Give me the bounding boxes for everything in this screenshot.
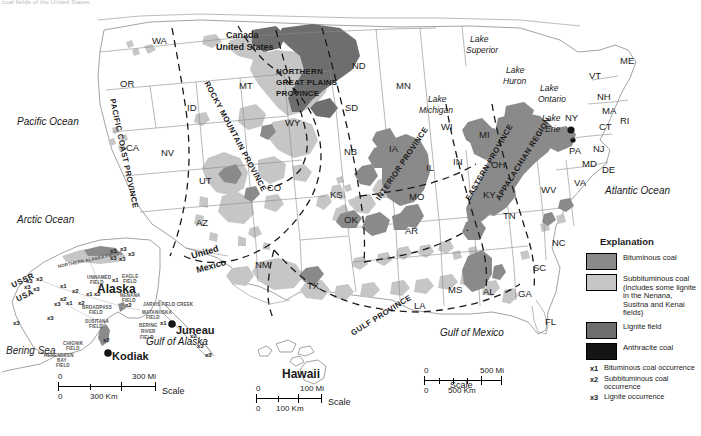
legend-occurrence-label-2: Lignite occurrence	[604, 393, 664, 401]
state-label-mt: MT	[239, 81, 253, 91]
legend-row-0: Bituminous coal	[586, 253, 698, 270]
legend-occurrence-key-x2: x2	[586, 375, 604, 384]
occurrence-marker-x3-4: x3	[119, 256, 126, 262]
state-label-sd: SD	[345, 103, 358, 113]
alaska-field-label-16: FIELD	[140, 336, 154, 341]
occurrence-marker-x3-7: x3	[24, 284, 31, 290]
ocean-label-2: Arctic Ocean	[17, 215, 74, 225]
state-label-nm: NM	[255, 260, 270, 270]
legend-occurrence-row-2: x3Lignite occurrence	[586, 393, 698, 402]
occurrence-marker-x3-25: x3	[205, 352, 212, 358]
legend-swatch-list: Bituminous coalSubbituminous coal (inclu…	[586, 253, 698, 360]
hawaii-scale-km-zero: 0	[256, 404, 260, 413]
hawaii-scale-bar: 0 100 Mi 0 100 Km Scale	[256, 384, 322, 413]
state-label-vt: VT	[589, 71, 601, 81]
hawaii-scale-word: Scale	[328, 397, 351, 407]
state-label-or: OR	[120, 79, 134, 89]
occurrence-marker-x3-2: x3	[128, 251, 135, 257]
occurrence-marker-x2-21: x2	[103, 337, 110, 343]
occurrence-marker-x3-24: x3	[197, 343, 204, 349]
lake-label-2: Lake	[506, 66, 524, 75]
state-label-id: ID	[187, 103, 197, 113]
lake-label-7: Ontario	[538, 95, 566, 104]
ocean-label-3: Gulf of Mexico	[440, 328, 504, 338]
occurrence-marker-x2-14: x2	[94, 291, 101, 297]
border-label-0: Canada	[226, 31, 259, 40]
state-label-mi: MI	[479, 130, 490, 140]
lake-label-1: Superior	[466, 46, 498, 55]
state-label-de: DE	[602, 165, 615, 175]
legend-occurrence-label-1: Subbituminous coal occurrence	[604, 375, 698, 391]
lake-label-4: Lake	[428, 95, 446, 104]
occurrence-marker-x2-23: x2	[190, 333, 197, 339]
legend-occurrence-list: x1Bituminous coal occurrencex2Subbitumin…	[586, 364, 698, 402]
legend-occurrence-key-x1: x1	[586, 364, 604, 373]
occurrence-marker-x3-8: x3	[33, 286, 40, 292]
hawaii-scale-km-max: 100 Km	[276, 404, 304, 413]
state-label-la: LA	[414, 301, 426, 311]
state-label-ct: CT	[599, 122, 612, 132]
state-label-nh: NH	[597, 92, 611, 102]
legend-label-3: Anthracite coal	[623, 343, 673, 353]
legend-swatch-2	[586, 322, 617, 339]
state-label-ia: IA	[389, 144, 398, 154]
province-label-northern-great-plains-2: GREAT PLAINS	[276, 79, 337, 87]
place-label-hawaii: Hawaii	[282, 368, 320, 380]
state-label-co: CO	[267, 183, 281, 193]
main-scale-word: Scale	[450, 380, 473, 390]
occurrence-marker-x3-6: x3	[36, 276, 43, 282]
place-label-kodiak: Kodiak	[112, 351, 149, 362]
state-label-nc: NC	[552, 238, 566, 248]
legend-row-3: Anthracite coal	[586, 343, 698, 360]
state-label-wy: WY	[285, 118, 300, 128]
ocean-label-0: Pacific Ocean	[17, 117, 79, 127]
state-label-al: AL	[483, 287, 495, 297]
occurrence-marker-x3-1: x3	[120, 246, 127, 252]
province-label-northern-great-plains-1: NORTHERN	[276, 68, 323, 76]
state-label-ok: OK	[344, 215, 358, 225]
alaska-scale-bar: 0 300 Mi 0 300 Km Scale	[58, 372, 156, 401]
legend-swatch-0	[586, 253, 617, 270]
legend-swatch-3	[586, 343, 617, 360]
alaska-field-label-7: JARVIS FIELD CREEK	[143, 303, 193, 308]
state-label-ut: UT	[199, 176, 212, 186]
state-label-fl: FL	[545, 317, 556, 327]
state-label-md: MD	[582, 159, 597, 169]
state-label-ny: NY	[565, 113, 578, 123]
alaska-field-label-13: FIELD	[89, 325, 103, 330]
state-label-nj: NJ	[593, 144, 605, 154]
state-label-va: VA	[574, 178, 586, 188]
state-label-ga: GA	[518, 289, 532, 299]
occurrence-marker-x3-15: x3	[54, 301, 61, 307]
state-label-wv: WV	[541, 185, 556, 195]
main-scale-km-zero: 0	[424, 386, 428, 395]
legend-occurrence-row-0: x1Bituminous coal occurrence	[586, 364, 698, 373]
state-label-mo: MO	[409, 192, 424, 202]
map-legend: Explanation Bituminous coalSubbituminous…	[586, 236, 698, 404]
state-label-ma: MA	[602, 106, 616, 116]
legend-row-1: Subbituminous coal (includes some lignit…	[586, 274, 698, 318]
state-label-ks: KS	[330, 190, 343, 200]
occurrence-marker-x1-9: x1	[112, 277, 119, 283]
state-label-mn: MN	[396, 81, 411, 91]
alaska-field-label-2: FIELD	[90, 281, 104, 286]
alaska-field-label-15: RIVER	[141, 330, 156, 335]
state-label-pa: PA	[569, 146, 581, 156]
alaska-scale-km-zero: 0	[58, 392, 62, 401]
state-label-tn: TN	[503, 211, 516, 221]
lake-label-0: Lake	[470, 35, 488, 44]
legend-occurrence-row-1: x2Subbituminous coal occurrence	[586, 375, 698, 391]
province-label-northern-great-plains-3: PROVINCE	[276, 90, 319, 98]
legend-title: Explanation	[600, 236, 698, 247]
occurrence-marker-x3-20: x3	[13, 320, 20, 326]
state-label-ar: AR	[405, 226, 418, 236]
hawaii-scale-mi-zero: 0	[256, 384, 260, 393]
state-label-tx: TX	[307, 281, 319, 291]
alaska-scale-km-max: 300 Km	[90, 392, 118, 401]
alaska-field-label-18: FIELD	[66, 347, 80, 352]
lake-label-5: Michigan	[419, 106, 453, 115]
alaska-field-label-21: FIELD	[56, 364, 70, 369]
legend-row-2: Lignite field	[586, 322, 698, 339]
legend-label-1: Subbituminous coal (includes some lignit…	[623, 274, 698, 318]
main-scale-bar: 0 500 Mi 0 500 Km Scale	[424, 366, 502, 395]
